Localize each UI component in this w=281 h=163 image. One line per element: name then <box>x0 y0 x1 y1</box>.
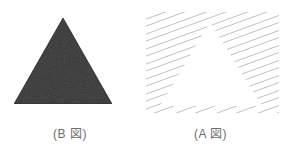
caption-figure-b: (B 図) <box>0 126 140 142</box>
figure-panel-a: (A 図) <box>140 0 281 163</box>
caption-figure-a: (A 図) <box>140 126 281 142</box>
figure-panel-b: (B 図) <box>0 0 140 163</box>
hatched-illusory-triangle-icon <box>146 12 279 113</box>
filled-triangle-icon <box>14 18 112 104</box>
figure-comparison-screenshot: (B 図) <box>0 0 281 163</box>
